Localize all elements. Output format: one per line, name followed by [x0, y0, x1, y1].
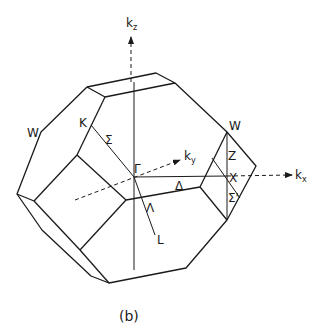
delta-line: [134, 176, 227, 177]
delta-label: Δ: [175, 179, 184, 193]
left-hexagon-face: [17, 97, 126, 201]
w-right-label: W: [229, 119, 241, 133]
ky-axis: [75, 160, 180, 200]
x-label: X: [229, 171, 237, 185]
l-label: L: [157, 233, 164, 247]
z-label: Z: [228, 149, 236, 163]
lambda-label: Λ: [146, 201, 155, 215]
kx-label: kx: [295, 168, 307, 184]
figure-caption: (b): [119, 308, 139, 324]
axes: [75, 37, 292, 200]
sigma-label: Σ: [105, 133, 113, 147]
w-left-label: W: [27, 126, 39, 140]
kz-label: kz: [126, 16, 137, 32]
zone-outline: [17, 73, 256, 283]
gamma-label: Γ: [134, 162, 141, 176]
top-square-face: [87, 83, 175, 97]
front-lower-face: [34, 187, 227, 283]
sigma-prime-label: Σ': [228, 191, 239, 205]
k-label: K: [79, 116, 88, 130]
ky-label: ky: [184, 149, 196, 165]
brillouin-zone-diagram: kz ky kx W K Γ W X L Σ Δ Λ Z Σ' (b): [0, 0, 318, 329]
